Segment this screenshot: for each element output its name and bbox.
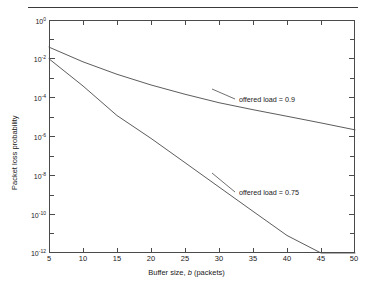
y-axis-title-wrap: Packet loss probability: [8, 0, 22, 290]
series-line-offered-load-0-75: [49, 59, 355, 253]
y-tick-label: 10-4: [34, 94, 46, 102]
x-tick-label: 10: [71, 255, 95, 263]
annotation-offered-load-0-75: offered load = 0.75: [239, 189, 299, 197]
annotation-offered-load-0-9: offered load = 0.9: [239, 96, 295, 104]
annotation-leader-line-lower: [212, 173, 235, 192]
x-axis-title-prefix: Buffer size,: [148, 268, 187, 277]
x-tick-label: 15: [105, 255, 129, 263]
x-axis-title-suffix: (packets): [192, 268, 225, 277]
chart-series-layer: [49, 20, 355, 253]
x-tick-label: 50: [342, 255, 366, 263]
x-tick-label: 30: [207, 255, 231, 263]
figure-page: 100 10-2 10-4 10-6 10-8 10-10 10-12: [0, 0, 373, 290]
y-tick-label: 10-10: [31, 211, 46, 219]
series-line-offered-load-0-9: [49, 47, 355, 130]
x-tick-label: 35: [241, 255, 265, 263]
y-tick-label: 10-8: [34, 172, 46, 180]
x-tick-label: 20: [139, 255, 163, 263]
y-tick-label: 100: [35, 17, 46, 25]
chart-figure: 100 10-2 10-4 10-6 10-8 10-10 10-12: [0, 0, 373, 290]
x-tick-label: 40: [275, 255, 299, 263]
y-tick-label: 10-2: [34, 55, 46, 63]
x-tick-label: 25: [173, 255, 197, 263]
x-axis-title: Buffer size, b (packets): [0, 268, 373, 277]
y-tick-label: 10-6: [34, 133, 46, 141]
x-tick-label: 45: [309, 255, 333, 263]
x-tick-label: 5: [37, 255, 61, 263]
annotation-leader-line-upper: [212, 89, 235, 99]
y-axis-title: Packet loss probability: [10, 80, 19, 190]
